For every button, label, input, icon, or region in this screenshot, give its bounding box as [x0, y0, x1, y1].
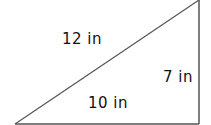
vertical-side-label: 7 in — [163, 70, 193, 85]
triangle-diagram: 12 in 7 in 10 in — [0, 0, 211, 125]
base-side-label: 10 in — [88, 96, 128, 111]
hypotenuse-label: 12 in — [62, 32, 102, 47]
